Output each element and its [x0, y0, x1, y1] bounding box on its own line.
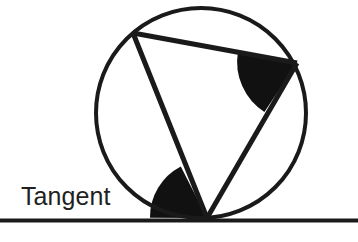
- main-circle: [96, 8, 306, 218]
- geometry-figure: Tangent: [0, 0, 358, 242]
- tangent-label: Tangent: [21, 182, 111, 210]
